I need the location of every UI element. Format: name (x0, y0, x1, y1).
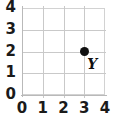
x-axis-line (21, 95, 107, 96)
y-tick-label-4: 4 (2, 0, 16, 15)
y-tick-label-3: 3 (2, 22, 16, 37)
data-point-label-Y: Y (87, 57, 97, 71)
plot-area (22, 8, 105, 95)
x-tick-label-1: 1 (36, 101, 50, 116)
gridline-horizontal-2 (23, 52, 106, 53)
gridline-horizontal-3 (23, 30, 106, 31)
x-tick-label-2: 2 (57, 101, 71, 116)
x-tick-label-4: 4 (98, 101, 112, 116)
y-axis-line (22, 6, 23, 97)
x-tick-label-0: 0 (15, 101, 29, 116)
gridline-horizontal-1 (23, 73, 106, 74)
y-tick-label-0: 0 (2, 87, 16, 102)
coordinate-grid-chart: 0 1 2 3 4 0 1 2 3 4 Y (0, 0, 116, 120)
y-tick-label-1: 1 (2, 65, 16, 80)
x-tick-label-3: 3 (77, 101, 91, 116)
data-point-Y (80, 47, 89, 56)
y-tick-label-2: 2 (2, 44, 16, 59)
